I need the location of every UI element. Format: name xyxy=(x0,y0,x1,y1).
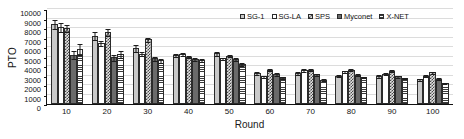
error-bar xyxy=(432,72,433,75)
bar-groups xyxy=(47,10,453,104)
error-bar xyxy=(351,69,352,72)
error-bar xyxy=(154,57,155,62)
legend-item[interactable]: SG-LA xyxy=(272,12,302,21)
legend-swatch-icon xyxy=(379,14,384,19)
x-tick-label: 10 xyxy=(46,106,87,118)
bar[interactable] xyxy=(199,60,205,104)
error-bar xyxy=(323,79,324,82)
legend-label: SG-1 xyxy=(247,12,265,21)
error-bar xyxy=(120,51,121,59)
legend-label: SG-LA xyxy=(279,12,302,21)
error-bar xyxy=(298,72,299,76)
legend-swatch-icon xyxy=(240,14,245,19)
error-bar xyxy=(379,75,380,78)
error-bar xyxy=(445,83,446,85)
error-bar xyxy=(216,52,217,57)
bar-slot xyxy=(199,10,205,104)
legend-label: Myconet xyxy=(344,12,372,21)
error-bar xyxy=(263,76,264,79)
bar-slot xyxy=(320,10,326,104)
error-bar xyxy=(189,56,190,60)
bar-group xyxy=(88,10,129,104)
legend-label: SPS xyxy=(315,12,330,21)
bar[interactable] xyxy=(402,78,408,104)
error-bar xyxy=(310,69,311,72)
x-tick-label: 90 xyxy=(372,106,413,118)
error-bar xyxy=(195,58,196,62)
legend-swatch-icon xyxy=(337,14,342,19)
error-bar xyxy=(276,73,277,76)
x-axis-label: Round xyxy=(46,119,453,130)
x-tick-label: 100 xyxy=(412,106,453,118)
bar[interactable] xyxy=(117,54,123,104)
error-bar xyxy=(419,79,420,82)
error-bar xyxy=(392,70,393,73)
error-bar xyxy=(114,55,115,63)
legend-item[interactable]: Myconet xyxy=(337,12,372,21)
x-tick-label: 50 xyxy=(209,106,250,118)
error-bar xyxy=(304,69,305,73)
bar-slot xyxy=(402,10,408,104)
error-bar xyxy=(73,51,74,61)
bar-slot xyxy=(77,10,83,104)
error-bar xyxy=(426,75,427,78)
error-bar xyxy=(439,78,440,81)
bar[interactable] xyxy=(320,80,326,104)
legend-item[interactable]: X-NET xyxy=(379,12,409,21)
bar-group xyxy=(209,10,250,104)
bar-slot xyxy=(239,10,245,104)
x-tick-label: 80 xyxy=(331,106,372,118)
error-bar xyxy=(257,72,258,76)
error-bar xyxy=(67,25,68,34)
error-bar xyxy=(95,32,96,41)
bar-slot xyxy=(280,10,286,104)
bar-group xyxy=(250,10,291,104)
legend-item[interactable]: SPS xyxy=(308,12,330,21)
bar[interactable] xyxy=(239,64,245,104)
x-tick-label: 60 xyxy=(250,106,291,118)
error-bar xyxy=(385,73,386,76)
error-bar xyxy=(107,29,108,37)
bar[interactable] xyxy=(442,83,448,104)
y-axis-label: PTO xyxy=(7,28,18,88)
legend-swatch-icon xyxy=(308,14,313,19)
error-bar xyxy=(229,55,230,59)
bar[interactable] xyxy=(361,77,367,104)
bar-group xyxy=(331,10,372,104)
error-bar xyxy=(364,77,365,80)
error-bar xyxy=(236,58,237,62)
error-bar xyxy=(60,23,61,33)
bar-group xyxy=(372,10,413,104)
plot-area: 0100020003000400050006000700080009000100… xyxy=(46,10,453,105)
error-bar xyxy=(182,53,183,57)
bar-slot xyxy=(158,10,164,104)
error-bar xyxy=(283,77,284,80)
error-bar xyxy=(142,52,143,57)
bar[interactable] xyxy=(77,49,83,104)
error-bar xyxy=(357,74,358,77)
bar[interactable] xyxy=(158,60,164,104)
legend-item[interactable]: SG-1 xyxy=(240,12,265,21)
error-bar xyxy=(176,54,177,59)
bar-group xyxy=(291,10,332,104)
bar[interactable] xyxy=(280,77,286,104)
x-axis-ticks: 102030405060708090100 xyxy=(46,106,453,118)
error-bar xyxy=(398,76,399,79)
bar-slot xyxy=(442,10,448,104)
error-bar xyxy=(317,74,318,77)
legend-swatch-icon xyxy=(272,14,277,19)
legend-label: X-NET xyxy=(386,12,409,21)
error-bar xyxy=(80,44,81,55)
error-bar xyxy=(270,69,271,72)
bar-group xyxy=(47,10,88,104)
error-bar xyxy=(338,75,339,78)
bar-slot xyxy=(117,10,123,104)
error-bar xyxy=(223,58,224,62)
x-tick-label: 20 xyxy=(87,106,128,118)
error-bar xyxy=(161,59,162,64)
bar-group xyxy=(169,10,210,104)
error-bar xyxy=(101,41,102,47)
bar-group xyxy=(412,10,453,104)
chart-legend: SG-1SG-LASPSMyconetX-NET xyxy=(240,12,409,21)
x-tick-label: 70 xyxy=(290,106,331,118)
